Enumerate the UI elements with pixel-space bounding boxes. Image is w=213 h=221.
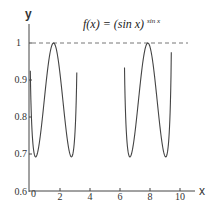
x-tick-label: 2 [58, 191, 63, 202]
curve-branch-2 [125, 43, 172, 157]
function-plot: y x 1 0.9 0.8 0.7 0.6 0 2 4 6 8 10 f(x) … [0, 0, 213, 221]
x-tick-label: 10 [175, 191, 185, 202]
y-tick-label: 1 [16, 37, 21, 48]
curve-group [30, 43, 171, 157]
x-tick-label: 8 [148, 191, 153, 202]
x-axis-label: x [199, 184, 205, 198]
x-tick-label: 0 [31, 188, 36, 199]
y-tick-label: 0.8 [15, 111, 28, 122]
y-axis-label: y [25, 7, 32, 21]
title-main: f(x) = (sin x) [83, 17, 144, 31]
chart-title: f(x) = (sin x) sin x [83, 17, 161, 31]
x-tick-label: 6 [118, 191, 123, 202]
y-tick-label: 0.9 [15, 74, 28, 85]
curve-branch-1 [30, 43, 77, 157]
title-exponent: sin x [147, 17, 161, 25]
y-tick-label: 0.7 [15, 148, 28, 159]
x-tick-label: 4 [88, 191, 93, 202]
y-tick-label: 0.6 [15, 186, 28, 197]
